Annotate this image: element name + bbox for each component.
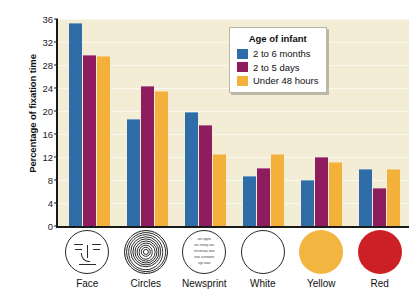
x-axis-category: Face [58,230,117,289]
y-axis-tick-mark [54,19,58,20]
x-axis-category: White [234,230,293,289]
bar [329,162,342,226]
bar [213,154,226,226]
bar [155,91,168,226]
newsprint-text-line: ead, sunflower [186,256,222,260]
bar [359,169,372,226]
x-axis-category-label: Red [371,278,389,289]
yellow-disc-icon [299,230,343,274]
bar [127,119,140,226]
x-axis-category-label: Face [76,278,98,289]
y-axis-tick-label: 32 [42,37,53,48]
y-axis-tick-mark [54,65,58,66]
legend-item: 2 to 6 months [237,48,318,59]
bar [257,168,270,226]
bar [199,125,212,226]
newsprint-text-line: oes apple [186,238,222,242]
y-axis-tick-label: 0 [48,221,53,232]
x-axis-category: oes appleed, honey, watern bread, whoead… [175,230,234,289]
legend: Age of infant 2 to 6 months2 to 5 daysUn… [229,27,327,93]
y-axis-tick-mark [54,180,58,181]
concentric-circles-icon [124,230,168,274]
bar [387,169,400,226]
face-icon [65,230,109,274]
bar [315,157,328,226]
bar [243,176,256,226]
bar [373,188,386,226]
legend-swatch [237,49,248,59]
newsprint-icon: oes appleed, honey, watern bread, whoead… [182,230,226,274]
bar-group [351,19,409,226]
newsprint-text-line: ed, honey, wat [186,244,222,248]
white-disc-icon [241,230,285,274]
legend-item: 2 to 5 days [237,62,318,73]
legend-title: Age of infant [237,33,318,44]
bar [97,56,110,226]
legend-swatch [237,62,248,72]
bar [301,180,314,226]
y-axis-tick-label: 8 [48,175,53,186]
x-axis-categories: FaceCirclesoes appleed, honey, watern br… [58,230,409,289]
bar [141,86,154,226]
x-axis-category-label: White [250,278,276,289]
legend-items: 2 to 6 months2 to 5 daysUnder 48 hours [237,48,318,86]
y-axis-tick-mark [54,157,58,158]
bar-chart: Percentage of fixation time 048121620242… [0,0,416,305]
legend-item-label: Under 48 hours [253,75,318,86]
x-axis-category-label: Yellow [307,278,336,289]
bar [185,112,198,226]
bar-group [60,19,118,226]
newsprint-text-line: ern bread, who [186,250,222,254]
newsprint-text-line: ugh flake [186,262,222,266]
y-axis-tick-label: 20 [42,106,53,117]
bar [83,55,96,226]
y-axis-tick-label: 12 [42,152,53,163]
y-axis-tick-label: 36 [42,14,53,25]
red-disc-icon [358,230,402,274]
legend-item-label: 2 to 6 months [253,48,311,59]
x-axis-category: Yellow [292,230,351,289]
bar [69,23,82,226]
x-axis-category: Red [351,230,410,289]
x-axis-category: Circles [117,230,176,289]
y-axis-tick-mark [54,226,58,227]
bar-group [176,19,234,226]
y-axis-tick-mark [54,203,58,204]
bar-group [118,19,176,226]
x-axis-category-label: Circles [130,278,161,289]
x-axis-category-label: Newsprint [182,278,226,289]
legend-item-label: 2 to 5 days [253,62,299,73]
legend-swatch [237,76,248,86]
legend-item: Under 48 hours [237,75,318,86]
y-axis-tick-label: 24 [42,83,53,94]
bar [271,154,284,226]
y-axis-tick-mark [54,42,58,43]
y-axis-tick-label: 28 [42,60,53,71]
y-axis-tick-mark [54,88,58,89]
y-axis-title: Percentage of fixation time [27,24,38,204]
newsprint-text-lines: oes appleed, honey, watern bread, whoead… [183,231,225,273]
y-axis-tick-label: 4 [48,198,53,209]
y-axis-tick-label: 16 [42,129,53,140]
y-axis-tick-mark [54,111,58,112]
y-axis-tick-mark [54,134,58,135]
